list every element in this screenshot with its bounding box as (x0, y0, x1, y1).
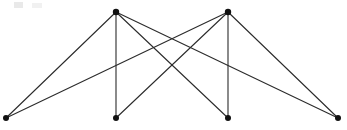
graph-edge (116, 12, 338, 118)
graph-edge (6, 12, 116, 118)
edge-layer (6, 12, 338, 118)
graph-edge (6, 12, 228, 118)
graph-figure (0, 0, 347, 130)
graph-edge (228, 12, 338, 118)
graph-vertex (335, 115, 341, 121)
graph-vertex (113, 9, 119, 15)
graph-vertex (113, 115, 119, 121)
graph-vertex (225, 9, 231, 15)
graph-vertex (225, 115, 231, 121)
graph-vertex (3, 115, 9, 121)
graph-canvas (0, 0, 347, 130)
